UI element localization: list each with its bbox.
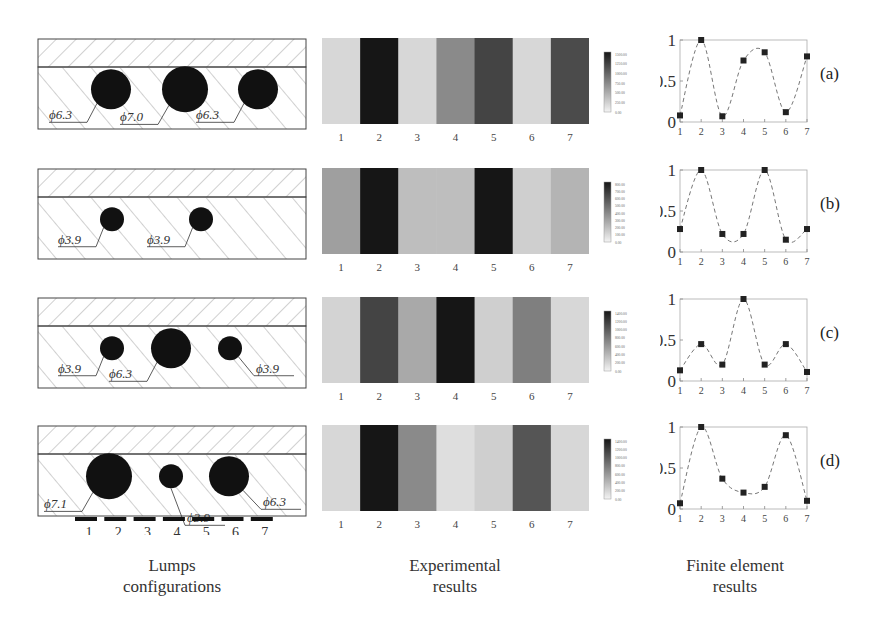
heatmap-column-6 <box>513 297 552 383</box>
heatmap-column-label: 1 <box>338 131 344 143</box>
x-tick-label: 6 <box>783 385 788 396</box>
heatmap-column-label: 1 <box>338 390 344 402</box>
colorbar-tick: 1250.00 <box>615 62 627 66</box>
data-point-marker <box>677 367 683 373</box>
sensor-element <box>222 517 244 521</box>
y-tick-label: 1 <box>668 31 677 50</box>
sensor-element <box>192 517 214 521</box>
heatmap-column-2 <box>360 425 399 511</box>
heatmap-column-label: 6 <box>529 518 535 530</box>
heatmap-column-7 <box>551 38 589 124</box>
heatmap-column-2 <box>360 38 399 124</box>
colorbar-tick: 1400.00 <box>615 312 627 316</box>
x-tick-label: 7 <box>805 385 810 396</box>
colorbar-tick: 500.00 <box>615 204 625 208</box>
top-layer <box>38 298 306 326</box>
y-tick-label: 0.5 <box>660 202 676 221</box>
heatmap-column-7 <box>551 425 589 511</box>
colorbar-tick: 100.00 <box>615 233 625 237</box>
x-tick-label: 7 <box>805 126 810 137</box>
heatmap-column-6 <box>513 168 552 254</box>
heatmap-column-label: 3 <box>415 390 421 402</box>
experimental-heatmap-c: 1234567 <box>322 297 589 409</box>
top-layer <box>38 169 306 197</box>
colorbar-tick: 250.00 <box>615 101 625 105</box>
heatmap-column-label: 2 <box>376 261 382 273</box>
sensor-number: 5 <box>203 525 210 535</box>
row-label-c: (c) <box>820 323 839 343</box>
heatmap-column-label: 6 <box>529 390 535 402</box>
data-point-marker <box>804 226 810 232</box>
column-title-experimental: Experimental results <box>375 555 535 597</box>
heatmap-column-label: 3 <box>415 131 421 143</box>
heatmap-column-label: 2 <box>376 518 382 530</box>
y-tick-label: 1 <box>668 418 677 437</box>
y-tick-label: 0.5 <box>660 331 676 350</box>
heatmap-column-label: 7 <box>567 390 573 402</box>
colorbar-tick: 600.00 <box>615 473 625 477</box>
fe-chart-b: 10.501234567 <box>660 160 820 279</box>
heatmap-column-2 <box>360 297 399 383</box>
colorbar-c: 1400.001200.001000.00800.00600.00400.002… <box>603 309 643 379</box>
x-tick-label: 6 <box>783 126 788 137</box>
data-point-marker <box>698 167 704 173</box>
heatmap-column-label: 2 <box>376 131 382 143</box>
data-point-marker <box>783 237 789 243</box>
experimental-heatmap-d: 1234567 <box>322 425 589 537</box>
lump-diameter-label: ϕ7.1 <box>44 496 67 511</box>
colorbar-tick: 800.00 <box>615 183 625 187</box>
x-tick-label: 3 <box>720 385 725 396</box>
x-tick-label: 4 <box>741 513 746 524</box>
lump-diameter-label: ϕ6.3 <box>109 366 132 381</box>
heatmap-column-5 <box>475 297 514 383</box>
data-point-marker <box>762 484 768 490</box>
colorbar-tick: 600.00 <box>615 345 625 349</box>
fe-chart-d: 10.501234567 <box>660 417 820 536</box>
colorbar-tick: 600.00 <box>615 197 625 201</box>
heatmap-column-label: 5 <box>491 261 497 273</box>
colorbar-d: 1400.001200.001000.00800.00600.00400.002… <box>603 437 643 507</box>
heatmap-column-3 <box>398 297 437 383</box>
heatmap-column-7 <box>551 168 589 254</box>
data-point-marker <box>719 476 725 482</box>
heatmap-column-3 <box>398 425 437 511</box>
heatmap-column-3 <box>398 38 437 124</box>
y-tick-label: 0 <box>668 243 677 262</box>
y-tick-label: 0.5 <box>660 72 676 91</box>
sensor-element <box>251 517 273 521</box>
data-point-marker <box>804 369 810 375</box>
heatmap-column-3 <box>398 168 437 254</box>
top-layer <box>38 39 306 67</box>
heatmap-column-label: 5 <box>491 518 497 530</box>
heatmap-column-label: 7 <box>567 261 573 273</box>
x-tick-label: 4 <box>741 256 746 267</box>
data-point-marker <box>719 362 725 368</box>
fe-curve <box>680 40 807 116</box>
column-title-lumps: Lumps configurations <box>92 555 252 597</box>
colorbar-tick: 400.00 <box>615 212 625 216</box>
sensor-number: 4 <box>173 525 180 535</box>
heatmap-column-1 <box>322 425 361 511</box>
data-point-marker <box>677 112 683 118</box>
colorbar-tick: 1200.00 <box>615 320 627 324</box>
colorbar-tick: 0.00 <box>615 241 621 245</box>
x-tick-label: 2 <box>699 385 704 396</box>
fe-curve <box>680 299 807 372</box>
x-tick-label: 1 <box>678 513 683 524</box>
heatmap-column-1 <box>322 168 361 254</box>
data-point-marker <box>804 498 810 504</box>
sensor-number: 6 <box>232 525 239 535</box>
heatmap-column-7 <box>551 297 589 383</box>
lump-diameter-label: ϕ6.3 <box>49 107 72 122</box>
sensor-number: 2 <box>115 525 122 535</box>
heatmap-column-4 <box>436 38 475 124</box>
x-tick-label: 5 <box>762 385 767 396</box>
x-tick-label: 2 <box>699 126 704 137</box>
data-point-marker <box>719 231 725 237</box>
data-point-marker <box>741 58 747 64</box>
x-tick-label: 7 <box>805 513 810 524</box>
sensor-element <box>134 517 156 521</box>
x-tick-label: 5 <box>762 126 767 137</box>
x-tick-label: 5 <box>762 256 767 267</box>
heatmap-column-label: 6 <box>529 131 535 143</box>
